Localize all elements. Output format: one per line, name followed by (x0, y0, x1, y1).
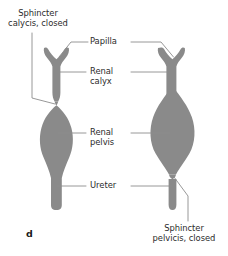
label-papilla: Papilla (90, 36, 132, 46)
label-renal-pelvis: Renal pelvis (90, 127, 132, 147)
right-ureter-shape (169, 179, 177, 210)
left-renal-pelvis-shape (40, 105, 73, 210)
label-sphincter-pelvicis: Sphincter pelvicis, closed (142, 223, 226, 243)
label-ureter: Ureter (90, 180, 132, 190)
label-sphincter-calycis: Sphincter calycis, closed (2, 8, 74, 28)
left-closed-sphincter-calycis (55, 102, 59, 106)
left-renal-calyx-shape (44, 47, 69, 101)
right-renal-pelvis-shape (150, 88, 194, 175)
label-renal-calyx: Renal calyx (90, 66, 132, 86)
renal-pelvis-diagram: Sphincter calycis, closed Papilla Renal … (0, 0, 228, 256)
leader-sphincter-calycis (32, 33, 55, 104)
panel-letter: d (26, 228, 33, 239)
